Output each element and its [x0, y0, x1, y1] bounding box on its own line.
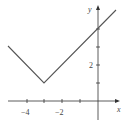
y-axis-arrow-icon [96, 5, 100, 10]
chart: −4 −2 2 x y [0, 0, 126, 123]
y-axis-label: y [87, 5, 92, 14]
x-tick-label-neg4: −4 [21, 108, 30, 117]
x-axis-arrow-icon [115, 99, 120, 103]
x-axis-label: x [116, 105, 121, 114]
y-tick-label-2: 2 [89, 61, 93, 70]
x-tick-label-neg2: −2 [55, 108, 64, 117]
absolute-value-curve [8, 10, 116, 83]
